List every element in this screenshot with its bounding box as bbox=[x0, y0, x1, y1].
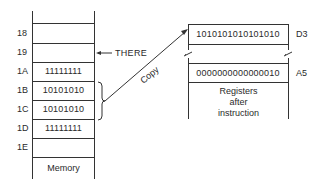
there-arrow-icon bbox=[96, 51, 112, 55]
diagram-connectors bbox=[0, 0, 319, 184]
copy-arrow-icon bbox=[105, 29, 188, 101]
brace-icon bbox=[98, 82, 105, 120]
